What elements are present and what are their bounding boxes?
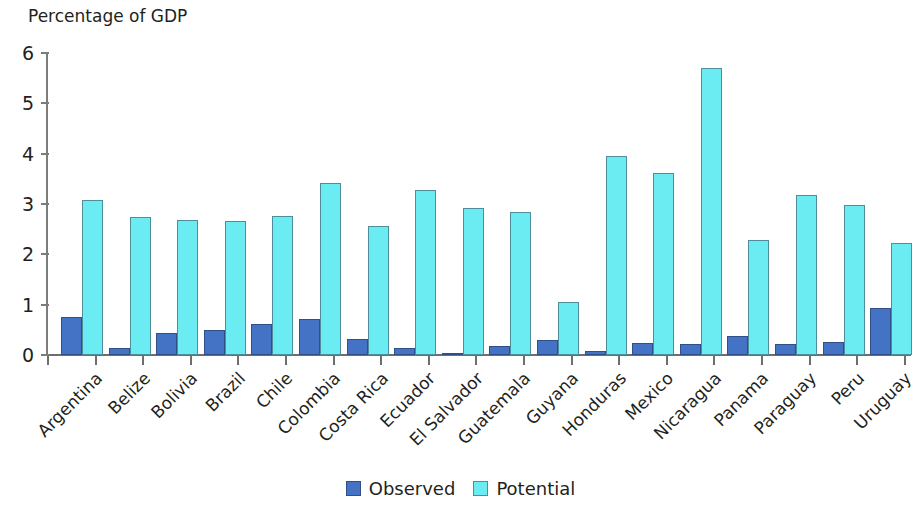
chart-container: Percentage of GDP 0123456 ArgentinaBeliz… (0, 0, 921, 510)
bar-group (299, 53, 341, 355)
bar-observed (442, 353, 463, 355)
bar-potential (320, 183, 341, 355)
bar-observed (823, 342, 844, 355)
bar-observed (775, 344, 796, 355)
bar-group (537, 53, 579, 355)
bar-group (109, 53, 151, 355)
bar-group (442, 53, 484, 355)
bar-group (823, 53, 865, 355)
bar-group (870, 53, 912, 355)
x-axis-tick (571, 356, 573, 365)
bar-observed (632, 343, 653, 355)
bar-potential (844, 205, 865, 355)
x-axis-tick (618, 356, 620, 365)
bar-observed (156, 333, 177, 355)
bar-observed (61, 317, 82, 355)
legend-swatch-potential-icon (473, 481, 488, 496)
bar-observed (394, 348, 415, 355)
x-axis-tick (713, 356, 715, 365)
bar-group (585, 53, 627, 355)
y-axis-tick-label: 6 (0, 42, 34, 64)
bar-observed (251, 324, 272, 355)
bar-observed (204, 330, 225, 355)
bar-potential (558, 302, 579, 355)
bar-group (727, 53, 769, 355)
y-axis-tick (41, 52, 49, 54)
bar-group (204, 53, 246, 355)
x-axis-tick (237, 356, 239, 365)
bar-potential (368, 226, 389, 355)
x-axis-tick (380, 356, 382, 365)
bar-observed (109, 348, 130, 355)
chart-legend: ObservedPotential (0, 478, 921, 499)
bar-observed (727, 336, 748, 355)
x-axis-tick (47, 356, 49, 365)
bar-group (347, 53, 389, 355)
bar-group (489, 53, 531, 355)
x-axis-tick (904, 356, 906, 365)
bar-potential (701, 68, 722, 355)
bar-potential (653, 173, 674, 355)
x-axis-tick (475, 356, 477, 365)
bar-group (632, 53, 674, 355)
y-axis-tick (41, 153, 49, 155)
bar-observed (347, 339, 368, 355)
bar-potential (510, 212, 531, 355)
y-axis-tick-label: 4 (0, 143, 34, 165)
bar-potential (177, 220, 198, 355)
bar-group (680, 53, 722, 355)
x-axis-tick (142, 356, 144, 365)
bar-observed (680, 344, 701, 355)
y-axis-tick (41, 304, 49, 306)
legend-item-potential[interactable]: Potential (473, 478, 575, 499)
bar-potential (225, 221, 246, 355)
bar-group (775, 53, 817, 355)
y-axis-tick-label: 5 (0, 92, 34, 114)
bar-potential (272, 216, 293, 355)
y-axis-tick (41, 102, 49, 104)
bar-group (394, 53, 436, 355)
legend-label: Observed (369, 478, 456, 499)
y-axis-tick-label: 0 (0, 344, 34, 366)
bar-observed (489, 346, 510, 355)
legend-swatch-observed-icon (346, 481, 361, 496)
bar-group (61, 53, 103, 355)
x-axis-tick (285, 356, 287, 365)
bar-potential (606, 156, 627, 355)
x-axis-tick (190, 356, 192, 365)
y-axis-tick (41, 203, 49, 205)
x-axis-tick (95, 356, 97, 365)
x-axis-tick (333, 356, 335, 365)
bar-potential (82, 200, 103, 355)
x-axis-tick (809, 356, 811, 365)
x-axis-tick (856, 356, 858, 365)
x-axis-tick (523, 356, 525, 365)
bar-potential (748, 240, 769, 355)
bar-potential (891, 243, 912, 355)
y-axis-tick (41, 253, 49, 255)
legend-item-observed[interactable]: Observed (346, 478, 456, 499)
y-axis-tick-label: 1 (0, 294, 34, 316)
x-axis-tick (761, 356, 763, 365)
x-axis-tick (428, 356, 430, 365)
y-axis-tick-label: 3 (0, 193, 34, 215)
legend-label: Potential (496, 478, 575, 499)
bar-potential (130, 217, 151, 355)
bar-potential (463, 208, 484, 355)
y-axis-tick-label: 2 (0, 243, 34, 265)
x-axis-tick (666, 356, 668, 365)
bar-potential (415, 190, 436, 355)
bar-observed (537, 340, 558, 355)
bar-observed (299, 319, 320, 355)
bar-observed (585, 351, 606, 355)
bar-observed (870, 308, 891, 355)
bar-potential (796, 195, 817, 355)
bar-group (156, 53, 198, 355)
chart-title: Percentage of GDP (28, 6, 187, 26)
bar-group (251, 53, 293, 355)
